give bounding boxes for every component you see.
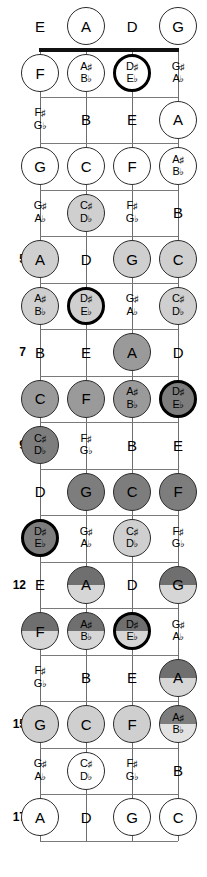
note-D-fret16[interactable]: F♯G♭: [113, 752, 151, 790]
note-D-fret5[interactable]: G: [113, 240, 151, 278]
note-G-fret9[interactable]: E: [159, 426, 197, 464]
note-E-fret12[interactable]: E: [21, 566, 59, 604]
note-D-fret0[interactable]: D: [113, 7, 151, 45]
note-D-fret10[interactable]: C: [113, 473, 151, 511]
note-E-fret13[interactable]: F: [21, 612, 59, 650]
note-label: D: [127, 577, 138, 592]
note-A-fret14[interactable]: B: [67, 659, 105, 697]
note-G-fret15[interactable]: A♯B♭: [159, 705, 197, 743]
fret-wire-10: [40, 515, 178, 516]
note-D-fret13[interactable]: D♯E♭: [113, 612, 151, 650]
note-E-fret0[interactable]: E: [21, 7, 59, 45]
note-label: A: [127, 345, 137, 360]
fret-wire-4: [40, 236, 178, 237]
note-D-fret12[interactable]: D: [113, 566, 151, 604]
note-G-fret12[interactable]: G: [159, 566, 197, 604]
note-E-fret16[interactable]: G♯A♭: [21, 752, 59, 790]
note-D-fret7[interactable]: A: [113, 333, 151, 371]
note-A-fret3[interactable]: C: [67, 147, 105, 185]
note-A-fret17[interactable]: D: [67, 798, 105, 836]
fret-wire-11: [40, 562, 178, 563]
note-D-fret2[interactable]: E: [113, 101, 151, 139]
note-G-fret13[interactable]: G♯A♭: [159, 612, 197, 650]
note-label: F: [36, 624, 45, 639]
note-D-fret11[interactable]: C♯D♭: [113, 519, 151, 557]
note-G-fret0[interactable]: G: [159, 7, 197, 45]
note-A-fret8[interactable]: F: [67, 380, 105, 418]
note-label: A: [81, 19, 91, 34]
note-E-fret10[interactable]: D: [21, 473, 59, 511]
note-E-fret11[interactable]: D♯E♭: [21, 519, 59, 557]
note-label: G: [80, 484, 91, 499]
note-E-fret17[interactable]: A: [21, 798, 59, 836]
note-label: A♭: [126, 306, 137, 319]
note-E-fret4[interactable]: G♯A♭: [21, 194, 59, 232]
note-D-fret17[interactable]: G: [113, 798, 151, 836]
note-G-fret2[interactable]: A: [159, 101, 197, 139]
note-E-fret15[interactable]: G: [21, 705, 59, 743]
note-G-fret4[interactable]: B: [159, 194, 197, 232]
note-E-fret5[interactable]: A: [21, 240, 59, 278]
note-E-fret9[interactable]: C♯D♭: [21, 426, 59, 464]
note-E-fret7[interactable]: B: [21, 333, 59, 371]
note-label: G♯: [126, 293, 139, 306]
note-A-fret15[interactable]: C: [67, 705, 105, 743]
note-A-fret9[interactable]: F♯G♭: [67, 426, 105, 464]
note-D-fret6[interactable]: G♯A♭: [113, 287, 151, 325]
note-label: F♯: [35, 665, 46, 678]
note-G-fret10[interactable]: F: [159, 473, 197, 511]
fret-wire-15: [40, 748, 178, 749]
note-A-fret2[interactable]: B: [67, 101, 105, 139]
note-A-fret1[interactable]: A♯B♭: [67, 54, 105, 92]
note-label: A♯: [126, 386, 137, 399]
note-G-fret14[interactable]: A: [159, 659, 197, 697]
note-E-fret3[interactable]: G: [21, 147, 59, 185]
note-G-fret5[interactable]: C: [159, 240, 197, 278]
note-G-fret7[interactable]: D: [159, 333, 197, 371]
note-A-fret12[interactable]: A: [67, 566, 105, 604]
note-label: E: [35, 577, 45, 592]
note-G-fret6[interactable]: C♯D♭: [159, 287, 197, 325]
note-D-fret14[interactable]: E: [113, 659, 151, 697]
note-A-fret13[interactable]: A♯B♭: [67, 612, 105, 650]
note-G-fret3[interactable]: A♯B♭: [159, 147, 197, 185]
note-A-fret7[interactable]: E: [67, 333, 105, 371]
note-D-fret3[interactable]: F: [113, 147, 151, 185]
note-E-fret2[interactable]: F♯G♭: [21, 101, 59, 139]
note-G-fret1[interactable]: G♯A♭: [159, 54, 197, 92]
note-D-fret8[interactable]: A♯B♭: [113, 380, 151, 418]
note-label: D♯: [80, 293, 92, 306]
note-E-fret8[interactable]: C: [21, 380, 59, 418]
note-E-fret6[interactable]: A♯B♭: [21, 287, 59, 325]
note-G-fret8[interactable]: D♯E♭: [159, 380, 197, 418]
note-A-fret0[interactable]: A: [67, 7, 105, 45]
note-label: D♭: [80, 213, 92, 226]
fret-wire-8: [40, 422, 178, 423]
note-G-fret16[interactable]: B: [159, 752, 197, 790]
note-label: E: [127, 112, 137, 127]
note-D-fret15[interactable]: F: [113, 705, 151, 743]
note-label: G: [172, 19, 183, 34]
note-A-fret5[interactable]: D: [67, 240, 105, 278]
note-D-fret4[interactable]: F♯G♭: [113, 194, 151, 232]
fret-wire-9: [40, 469, 178, 470]
note-A-fret16[interactable]: C♯D♭: [67, 752, 105, 790]
note-D-fret1[interactable]: D♯E♭: [113, 54, 151, 92]
note-label: E♭: [172, 399, 183, 412]
note-E-fret1[interactable]: F: [21, 54, 59, 92]
note-E-fret14[interactable]: F♯G♭: [21, 659, 59, 697]
note-G-fret11[interactable]: F♯G♭: [159, 519, 197, 557]
note-A-fret6[interactable]: D♯E♭: [67, 287, 105, 325]
note-D-fret9[interactable]: B: [113, 426, 151, 464]
note-A-fret10[interactable]: G: [67, 473, 105, 511]
fret-wire-14: [40, 701, 178, 702]
fret-wire-1: [40, 97, 178, 98]
note-label: G♭: [34, 678, 46, 691]
fret-wire-5: [40, 283, 178, 284]
note-A-fret11[interactable]: G♯A♭: [67, 519, 105, 557]
note-A-fret4[interactable]: C♯D♭: [67, 194, 105, 232]
note-G-fret17[interactable]: C: [159, 798, 197, 836]
note-label: D♭: [80, 771, 92, 784]
fret-wire-13: [40, 655, 178, 656]
note-label: C♯: [80, 758, 92, 771]
